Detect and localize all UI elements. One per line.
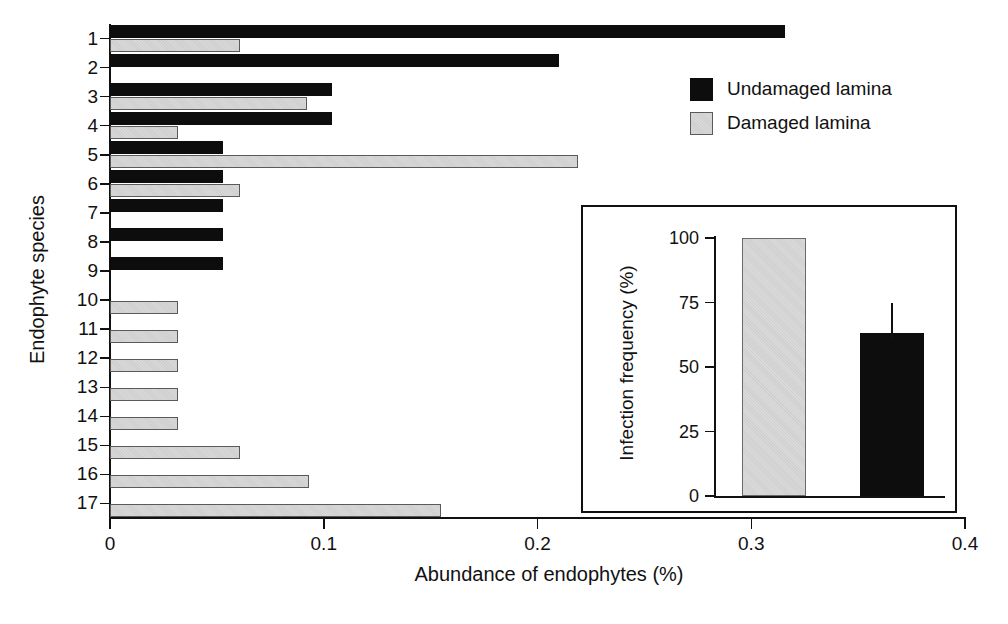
bar-damaged — [110, 359, 178, 372]
inset-plot-area: 0255075100 Infection frequency (%) — [583, 207, 955, 511]
x-axis-title: Abundance of endophytes (%) — [0, 563, 1008, 586]
x-axis-tick-label: 0 — [75, 534, 145, 554]
y-axis-tick — [100, 474, 109, 476]
bar-damaged — [110, 388, 178, 401]
y-axis-tick — [100, 241, 109, 243]
bar-undamaged — [110, 83, 332, 96]
bar-undamaged — [110, 54, 559, 67]
y-axis-tick — [100, 270, 109, 272]
inset-y-axis-tick-label: 50 — [645, 358, 699, 376]
y-axis-tick-label: 1 — [38, 29, 98, 48]
y-axis-tick — [100, 416, 109, 418]
y-axis-tick — [100, 96, 109, 98]
legend-label-damaged: Damaged lamina — [727, 112, 871, 134]
y-axis-tick-label: 4 — [38, 116, 98, 135]
legend: Undamaged lamina Damaged lamina — [690, 72, 990, 140]
figure-endophyte-abundance: 1234567891011121314151617 00.10.20.30.4 … — [0, 0, 1008, 624]
y-axis-tick — [100, 357, 109, 359]
bar-undamaged — [110, 141, 223, 154]
x-axis-tick-label: 0.2 — [503, 534, 573, 554]
x-axis-tick-label: 0.1 — [289, 534, 359, 554]
y-axis-tick-label: 15 — [38, 435, 98, 454]
inset-error-bar — [891, 303, 893, 340]
black-square-swatch-icon — [690, 78, 713, 101]
bar-damaged — [110, 126, 178, 139]
inset-y-axis-line — [714, 236, 716, 497]
bar-damaged — [110, 417, 178, 430]
x-axis-tick-label: 0.4 — [930, 534, 1000, 554]
y-axis-tick — [100, 387, 109, 389]
y-axis-tick — [100, 38, 109, 40]
legend-item-undamaged: Undamaged lamina — [690, 72, 990, 106]
bar-undamaged — [110, 25, 785, 38]
y-axis-tick-label: 17 — [38, 493, 98, 512]
bar-undamaged — [110, 112, 332, 125]
inset-bar-damaged — [742, 238, 806, 496]
y-axis-tick-label: 16 — [38, 464, 98, 483]
inset-y-axis-tick — [705, 495, 714, 497]
legend-label-undamaged: Undamaged lamina — [727, 78, 892, 100]
x-axis-tick-label: 0.3 — [716, 534, 786, 554]
bar-damaged — [110, 39, 240, 52]
legend-item-damaged: Damaged lamina — [690, 106, 990, 140]
bar-damaged — [110, 184, 240, 197]
bar-undamaged — [110, 199, 223, 212]
bar-damaged — [110, 446, 240, 459]
inset-y-axis-tick — [705, 366, 714, 368]
y-axis-tick — [100, 154, 109, 156]
x-axis-title-text: Abundance of endophytes (%) — [414, 563, 683, 585]
y-axis-tick — [100, 299, 109, 301]
inset-panel-infection-frequency: 0255075100 Infection frequency (%) — [581, 205, 957, 513]
x-axis-tick — [323, 519, 325, 529]
gray-square-swatch-icon — [690, 112, 713, 135]
y-axis-tick — [100, 67, 109, 69]
inset-y-axis-tick-label: 0 — [645, 487, 699, 505]
y-axis-tick — [100, 445, 109, 447]
inset-y-axis-tick-label: 25 — [645, 423, 699, 441]
inset-y-axis-tick — [705, 431, 714, 433]
x-axis-tick — [537, 519, 539, 529]
x-axis-tick — [109, 519, 111, 529]
inset-y-axis-tick-label: 100 — [645, 229, 699, 247]
bar-undamaged — [110, 257, 223, 270]
bar-damaged — [110, 97, 307, 110]
y-axis-tick — [100, 183, 109, 185]
y-axis-tick-label: 2 — [38, 58, 98, 77]
bar-damaged — [110, 475, 309, 488]
x-axis-tick — [964, 519, 966, 529]
y-axis-title: Endophyte species — [26, 165, 49, 395]
inset-y-axis-title: Infection frequency (%) — [616, 233, 638, 493]
y-axis-tick-label: 14 — [38, 406, 98, 425]
bar-undamaged — [110, 170, 223, 183]
bar-damaged — [110, 330, 178, 343]
y-axis-tick-label: 5 — [38, 145, 98, 164]
bar-undamaged — [110, 228, 223, 241]
x-axis-tick — [751, 519, 753, 529]
inset-bar-undamaged — [860, 333, 924, 496]
bar-damaged — [110, 155, 578, 168]
bar-damaged — [110, 504, 441, 517]
y-axis-tick — [100, 212, 109, 214]
y-axis-tick — [100, 328, 109, 330]
inset-y-axis-tick — [705, 237, 714, 239]
bar-damaged — [110, 301, 178, 314]
inset-y-axis-tick-label: 75 — [645, 294, 699, 312]
y-axis-tick-label: 3 — [38, 87, 98, 106]
y-axis-tick — [100, 503, 109, 505]
inset-y-axis-tick — [705, 302, 714, 304]
y-axis-tick — [100, 125, 109, 127]
inset-x-axis-line — [714, 496, 945, 498]
